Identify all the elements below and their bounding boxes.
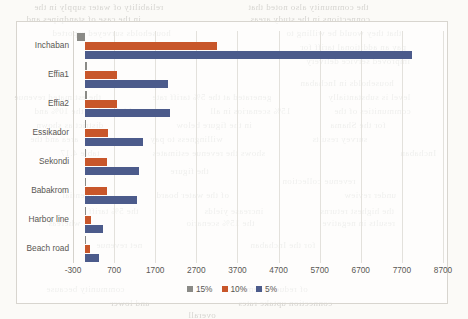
legend-item-15pct[interactable]: 15% [187, 284, 213, 294]
bar-group [73, 31, 443, 60]
bleed-text-line: the community also noted that [248, 2, 369, 12]
bar-babakrom-15pct [85, 178, 86, 186]
bar-effia1-10pct [85, 71, 117, 79]
bar-harbor-line-10pct [85, 216, 90, 224]
bar-beach-road-5pct [85, 254, 99, 262]
x-tick-label: 6700 [352, 265, 370, 275]
bar-babakrom-5pct [85, 196, 136, 204]
x-tick-label: 1700 [146, 265, 164, 275]
gridline [443, 31, 444, 263]
bar-effia1-15pct [85, 62, 86, 70]
category-label-inchaban: Inchaban [35, 40, 69, 50]
bar-group [73, 89, 443, 118]
bar-effia2-5pct [85, 109, 169, 117]
legend-item-10pct[interactable]: 10% [222, 284, 248, 294]
category-label-effia1: Effia1 [48, 69, 69, 79]
category-label-beach-road: Beach road [27, 243, 69, 253]
bar-babakrom-10pct [85, 187, 106, 195]
category-label-sekondi: Sekondi [39, 156, 69, 166]
bar-beach-road-15pct [85, 236, 86, 244]
bar-group [73, 118, 443, 147]
chart-legend: 15%10%5% [17, 284, 447, 294]
bar-effia2-15pct [85, 91, 86, 99]
bar-group [73, 60, 443, 89]
bar-inchaban-5pct [85, 51, 412, 59]
category-label-harbor-line: Harbor line [28, 214, 69, 224]
bar-inchaban-15pct [77, 33, 85, 41]
legend-swatch-icon [187, 286, 193, 292]
bar-group [73, 176, 443, 205]
bar-sekondi-5pct [85, 167, 138, 175]
bleed-text-line: overall [188, 310, 216, 319]
bar-group [73, 205, 443, 234]
x-tick-label: 7700 [393, 265, 411, 275]
x-tick-label: 3700 [228, 265, 246, 275]
legend-label: 10% [231, 284, 248, 294]
bleed-text-line: reliability of water supply in the [34, 2, 163, 12]
value-axis-tick-labels: -30070017002700370047005700670077008700 [73, 265, 453, 279]
bar-sekondi-15pct [85, 149, 86, 157]
bar-beach-road-10pct [85, 245, 90, 253]
category-axis-labels: InchabanEffia1Effia2EssikadorSekondiBaba… [17, 31, 69, 263]
x-tick-label: 700 [107, 265, 121, 275]
category-label-babakrom: Babakrom [31, 185, 69, 195]
x-tick-label: 2700 [187, 265, 205, 275]
bar-effia2-10pct [85, 100, 117, 108]
bar-essikador-5pct [85, 138, 143, 146]
bar-group [73, 147, 443, 176]
plot-area [73, 31, 443, 263]
bar-sekondi-10pct [85, 158, 107, 166]
category-label-effia2: Effia2 [48, 98, 69, 108]
bar-harbor-line-5pct [85, 225, 102, 233]
legend-swatch-icon [222, 286, 228, 292]
bar-essikador-15pct [85, 120, 86, 128]
legend-label: 5% [265, 284, 277, 294]
bar-essikador-10pct [85, 129, 107, 137]
x-tick-label: -300 [65, 265, 82, 275]
chart-container: InchabanEffia1Effia2EssikadorSekondiBaba… [16, 21, 448, 304]
legend-label: 15% [196, 284, 213, 294]
x-tick-label: 8700 [434, 265, 452, 275]
bar-harbor-line-15pct [85, 207, 86, 215]
x-tick-label: 4700 [269, 265, 287, 275]
legend-item-5pct[interactable]: 5% [256, 284, 277, 294]
bar-effia1-5pct [85, 80, 167, 88]
x-tick-label: 5700 [310, 265, 328, 275]
category-label-essikador: Essikador [33, 127, 69, 137]
legend-swatch-icon [256, 286, 262, 292]
bar-group [73, 234, 443, 263]
bar-inchaban-10pct [85, 42, 217, 50]
